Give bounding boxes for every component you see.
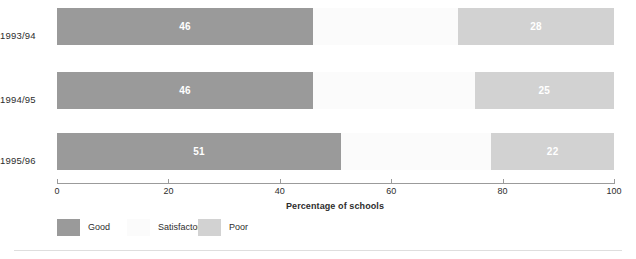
x-axis-tick xyxy=(391,179,392,184)
x-axis-tick xyxy=(614,179,615,184)
bar-segment-poor[interactable]: 22 xyxy=(491,133,614,170)
x-axis-tick xyxy=(57,179,58,184)
bar-value-label: 51 xyxy=(193,147,205,157)
bar-segment-satisfactory[interactable] xyxy=(313,72,475,109)
bar-row-1993-94: 46 28 xyxy=(57,8,614,45)
legend-item-poor[interactable]: Poor xyxy=(198,218,248,236)
bar-value-label: 46 xyxy=(179,86,191,96)
legend-label-good: Good xyxy=(88,223,110,232)
plot-area: 46 28 46 25 51 xyxy=(57,0,614,180)
y-axis-category-label-1993-94: 1993/94 xyxy=(0,31,50,41)
x-axis-tick-label: 100 xyxy=(606,187,621,196)
legend-label-poor: Poor xyxy=(229,223,248,232)
legend-swatch-poor xyxy=(198,219,221,236)
y-axis-category-label-1994-95: 1994/95 xyxy=(0,95,50,105)
x-axis-tick-label: 60 xyxy=(386,187,396,196)
x-axis-tick xyxy=(280,179,281,184)
y-axis-category-label-1995-96: 1995/96 xyxy=(0,156,50,166)
bar-segment-poor[interactable]: 28 xyxy=(458,8,614,45)
x-axis-tick-label: 80 xyxy=(498,187,508,196)
x-axis-title: Percentage of schools xyxy=(0,201,636,211)
x-axis-line xyxy=(57,183,614,184)
bar-value-label: 28 xyxy=(530,22,542,32)
x-axis-tick-label: 40 xyxy=(275,187,285,196)
bar-segment-good[interactable]: 51 xyxy=(57,133,341,170)
legend-item-good[interactable]: Good xyxy=(57,218,110,236)
legend-item-satisfactory[interactable]: Satisfactory xyxy=(127,218,205,236)
footer-divider xyxy=(14,250,622,251)
stacked-bar-chart: 1993/94 1994/95 1995/96 46 28 46 25 xyxy=(0,0,636,259)
bar-value-label: 22 xyxy=(547,147,559,157)
bar-segment-good[interactable]: 46 xyxy=(57,8,313,45)
x-axis-tick xyxy=(503,179,504,184)
bar-segment-good[interactable]: 46 xyxy=(57,72,313,109)
bar-value-label: 25 xyxy=(539,86,551,96)
legend-swatch-good xyxy=(57,219,80,236)
x-axis-tick-label: 0 xyxy=(54,187,59,196)
bar-segment-poor[interactable]: 25 xyxy=(475,72,614,109)
bar-row-1995-96: 51 22 xyxy=(57,133,614,170)
x-axis-tick-label: 20 xyxy=(163,187,173,196)
legend-swatch-satisfactory xyxy=(127,219,150,236)
x-axis-tick xyxy=(168,179,169,184)
bar-segment-satisfactory[interactable] xyxy=(341,133,491,170)
bar-row-1994-95: 46 25 xyxy=(57,72,614,109)
bar-segment-satisfactory[interactable] xyxy=(313,8,458,45)
bar-value-label: 46 xyxy=(179,22,191,32)
